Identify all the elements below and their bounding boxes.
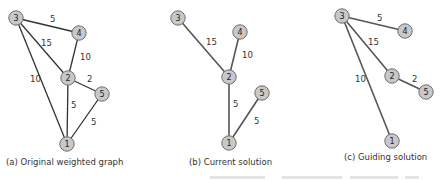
svg-text:3: 3 [339, 12, 344, 21]
node-b-4: 4 [233, 25, 247, 39]
caption-guiding-solution: (c) Guiding solution [344, 152, 427, 162]
svg-text:5: 5 [423, 88, 428, 97]
edge-weight-c-3-1: 10 [355, 74, 366, 84]
edge-a-3-4 [16, 18, 79, 33]
node-a-4: 4 [72, 26, 86, 40]
edge-a-2-1 [67, 78, 68, 144]
node-a-1: 1 [60, 137, 74, 151]
svg-text:2: 2 [389, 72, 394, 81]
node-c-4: 4 [398, 24, 412, 38]
node-b-3: 3 [171, 11, 185, 25]
svg-text:3: 3 [13, 14, 18, 23]
edge-weight-a-3-2: 15 [41, 38, 52, 48]
node-a-5: 5 [95, 87, 109, 101]
svg-text:4: 4 [76, 29, 81, 38]
edge-c-3-4 [342, 16, 405, 31]
svg-text:1: 1 [226, 139, 231, 148]
svg-text:2: 2 [226, 73, 231, 82]
edge-c-3-2 [342, 16, 392, 76]
node-b-5: 5 [255, 86, 269, 100]
node-b-2: 2 [222, 70, 236, 84]
nodes-layer: 123451234512345 [9, 9, 433, 151]
edge-weight-a-4-2: 10 [80, 52, 91, 62]
node-a-2: 2 [61, 71, 75, 85]
edge-weight-b-3-2: 15 [206, 37, 217, 47]
edge-c-3-1 [342, 16, 392, 141]
svg-text:1: 1 [389, 137, 394, 146]
edge-weight-c-3-4: 5 [377, 13, 382, 23]
svg-text:2: 2 [65, 74, 70, 83]
svg-text:4: 4 [402, 27, 407, 36]
edge-weight-a-2-5: 2 [87, 74, 92, 84]
edge-weight-a-3-4: 5 [50, 14, 55, 24]
edge-weight-c-2-5: 2 [412, 74, 417, 84]
svg-text:3: 3 [175, 14, 180, 23]
edge-weight-a-3-1: 10 [30, 74, 41, 84]
edge-weight-c-3-2: 15 [368, 37, 379, 47]
edge-weight-b-5-1: 5 [254, 116, 259, 126]
edge-weight-a-2-1: 5 [71, 100, 76, 110]
caption-current-solution: (b) Current solution [189, 157, 272, 167]
node-c-3: 3 [335, 9, 349, 23]
svg-text:5: 5 [99, 90, 104, 99]
edge-b-3-2 [178, 18, 229, 77]
edge-weight-b-4-2: 10 [242, 50, 253, 60]
caption-original-graph: (a) Original weighted graph [6, 157, 123, 167]
cropped-text-fragment [200, 176, 441, 180]
node-b-1: 1 [222, 136, 236, 150]
svg-text:1: 1 [64, 140, 69, 149]
edge-a-3-2 [16, 18, 68, 78]
node-c-5: 5 [419, 85, 433, 99]
svg-text:4: 4 [237, 28, 242, 37]
edge-weight-b-2-1: 5 [233, 99, 238, 109]
svg-text:5: 5 [259, 89, 264, 98]
edge-a-3-1 [16, 18, 67, 144]
edge-weight-a-5-1: 5 [91, 117, 96, 127]
node-a-3: 3 [9, 11, 23, 25]
node-c-1: 1 [385, 134, 399, 148]
node-c-2: 2 [385, 69, 399, 83]
